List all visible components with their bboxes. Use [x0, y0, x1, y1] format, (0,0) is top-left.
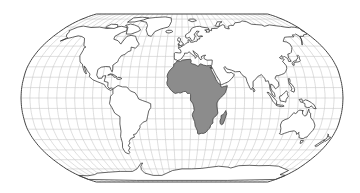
world-map-canvas — [0, 0, 360, 193]
hispaniola-landmass — [117, 77, 122, 79]
world-map — [0, 0, 360, 193]
